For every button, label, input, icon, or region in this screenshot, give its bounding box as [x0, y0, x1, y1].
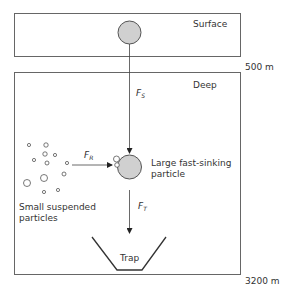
deep-label: Deep: [193, 80, 217, 90]
depth-3200-label: 3200 m: [245, 276, 280, 286]
large-particle: [118, 155, 142, 179]
surface-particle: [118, 21, 141, 44]
depth-500-label: 500 m: [245, 62, 274, 72]
small-particles-label: Small suspended: [19, 202, 96, 212]
surface-label: Surface: [193, 19, 228, 29]
sinking-flux-label: FS: [136, 88, 145, 99]
trap-flux-label: FT: [138, 201, 148, 212]
large-particle-label-2: particle: [151, 169, 185, 179]
small-suspended-particles: [24, 143, 69, 194]
large-particle-label: Large fast-sinking: [151, 158, 231, 168]
trap-label: Trap: [119, 253, 139, 263]
attached-small-particle: [114, 156, 120, 162]
attached-small-particle: [115, 163, 120, 168]
particle-flux-diagram: Surface 500 m Deep FS Large fast-sinking…: [0, 0, 287, 287]
small-particles-label-2: particles: [19, 213, 58, 223]
removal-flux-label: FR: [84, 150, 93, 161]
